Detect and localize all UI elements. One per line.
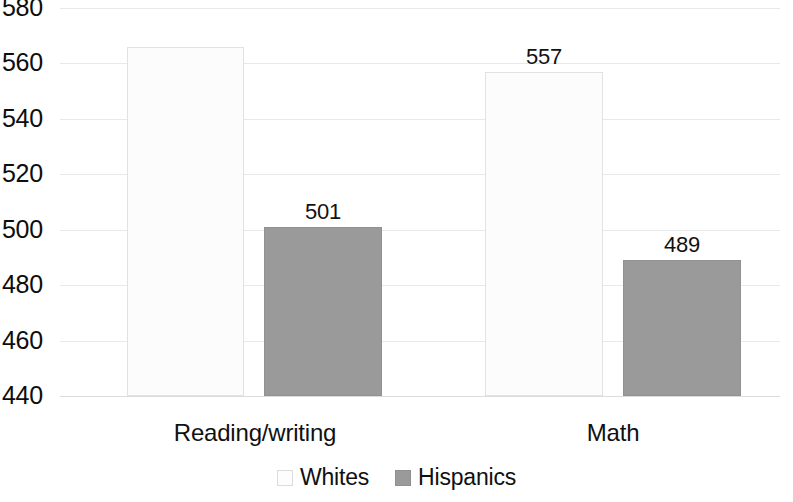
y-axis-tick-500: 500 [2,217,58,242]
bar-math-whites[interactable] [485,72,603,396]
y-axis-tick-440: 440 [2,383,58,408]
legend-swatch-icon-hispanics [395,470,411,486]
y-axis-tick-540: 540 [2,106,58,131]
legend-item-whites[interactable]: Whites [277,466,369,489]
gridline-baseline-440 [60,396,780,397]
x-axis-label-math: Math [453,420,773,446]
legend-swatch-icon-whites [277,470,293,486]
bar-reading-writing-whites[interactable] [127,47,244,396]
y-axis-tick-560: 560 [2,50,58,75]
gridline-580 [60,8,780,9]
bar-value-reading-writing-whites: 566 [127,0,244,4]
legend: Whites Hispanics [0,466,793,489]
y-axis-tick-580: 580 [2,0,58,20]
legend-label-whites: Whites [300,466,369,489]
bar-math-hispanics[interactable] [623,260,741,396]
bar-value-reading-writing-hispanics: 501 [264,201,382,223]
y-axis: 580 560 540 520 500 480 460 440 [2,0,58,502]
plot-area: 566 501 557 489 Reading/writing Math [60,8,780,396]
y-axis-tick-460: 460 [2,328,58,353]
bar-chart: 580 560 540 520 500 480 460 440 566 501 … [0,0,793,502]
bar-value-math-whites: 557 [485,46,603,68]
bar-reading-writing-hispanics[interactable] [264,227,382,396]
legend-label-hispanics: Hispanics [418,466,516,489]
legend-item-hispanics[interactable]: Hispanics [395,466,516,489]
y-axis-tick-520: 520 [2,161,58,186]
bar-value-math-hispanics: 489 [623,234,741,256]
x-axis-label-reading-writing: Reading/writing [95,420,415,446]
y-axis-tick-480: 480 [2,272,58,297]
